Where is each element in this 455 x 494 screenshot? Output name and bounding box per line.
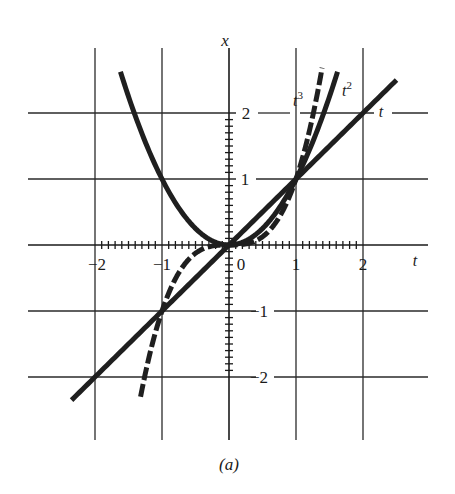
parametric-curves-figure: x t −2 −1 0 1 2 2 1 −1 −2 t t2 t3 (a) xyxy=(0,0,455,494)
x-axis-label: x xyxy=(220,31,229,50)
t-axis-label: t xyxy=(413,252,418,269)
tick-label-t-minus-1: −1 xyxy=(153,255,171,274)
series-label-t-squared-exp: 2 xyxy=(346,79,352,91)
tick-label-x-minus-1: −1 xyxy=(250,302,268,321)
series-label-t-cubed-exp: 3 xyxy=(297,89,303,101)
tick-label-t-1: 1 xyxy=(292,255,301,274)
figure-caption: (a) xyxy=(219,455,239,474)
tick-label-t-minus-2: −2 xyxy=(88,255,106,274)
tick-label-x-1: 1 xyxy=(241,170,250,189)
curves xyxy=(72,68,397,400)
series-label-t: t xyxy=(379,103,384,120)
tick-label-x-2: 2 xyxy=(242,104,251,123)
tick-label-t-2: 2 xyxy=(359,255,368,274)
tick-label-x-minus-2: −2 xyxy=(250,368,268,387)
series-label-t-cubed: t3 xyxy=(293,89,303,109)
curve-x-equals-t xyxy=(72,80,397,400)
series-label-t-squared: t2 xyxy=(342,79,352,99)
tick-label-t-0: 0 xyxy=(237,255,246,274)
